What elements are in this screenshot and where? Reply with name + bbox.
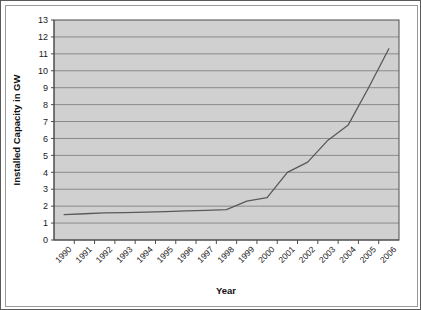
plot-background <box>54 20 399 240</box>
x-axis-tick-label: 1993 <box>114 244 135 265</box>
y-axis-tick-label: 13 <box>38 15 48 25</box>
x-axis-title: Year <box>216 285 236 296</box>
chart-frame: 012345678910111213 199019911992199319941… <box>5 5 418 307</box>
y-axis-tick-label: 0 <box>43 235 48 245</box>
y-axis-tick-label: 5 <box>43 151 48 161</box>
y-axis-tick-label: 11 <box>39 49 48 59</box>
x-axis-tick-label: 2003 <box>317 244 338 265</box>
x-axis-tick-label: 1991 <box>73 244 94 265</box>
x-axis-tick-label: 1990 <box>53 244 74 265</box>
y-axis-tick-labels: 012345678910111213 <box>38 15 48 245</box>
x-axis-tick-label: 2002 <box>297 244 318 265</box>
x-axis-tick-label: 1992 <box>94 244 115 265</box>
chart-figure: 012345678910111213 199019911992199319941… <box>0 0 421 310</box>
x-axis-tick-label: 1999 <box>236 244 257 265</box>
x-axis-tick-label: 1995 <box>155 244 176 265</box>
y-axis-tick-label: 4 <box>43 168 48 178</box>
y-axis-title: Installed Capacity in GW <box>11 75 22 186</box>
y-axis-tick-label: 2 <box>43 201 48 211</box>
x-axis-tick-label: 2006 <box>378 244 399 265</box>
x-axis-tick-label: 1998 <box>215 244 236 265</box>
y-axis-tick-label: 10 <box>38 66 48 76</box>
x-axis-tick-label: 2000 <box>256 244 277 265</box>
y-axis-tick-label: 8 <box>43 100 48 110</box>
x-axis-tick-labels: 1990199119921993199419951996199719981999… <box>53 244 398 265</box>
y-axis-tick-label: 3 <box>43 184 48 194</box>
x-axis-tick-label: 2005 <box>358 244 379 265</box>
y-axis-tick-label: 9 <box>43 83 48 93</box>
x-axis-tick-label: 1996 <box>175 244 196 265</box>
y-axis-tick-label: 6 <box>43 134 48 144</box>
x-axis-tick-label: 1994 <box>134 244 155 265</box>
y-axis-tick-label: 12 <box>38 32 48 42</box>
y-axis-tick-label: 7 <box>43 117 48 127</box>
line-chart: 012345678910111213 199019911992199319941… <box>6 6 417 306</box>
x-axis-tick-label: 1997 <box>195 244 216 265</box>
y-axis-tick-label: 1 <box>43 218 48 228</box>
x-axis-tick-label: 2004 <box>337 244 358 265</box>
x-axis-ticks <box>74 240 378 244</box>
x-axis-tick-label: 2001 <box>276 244 297 265</box>
